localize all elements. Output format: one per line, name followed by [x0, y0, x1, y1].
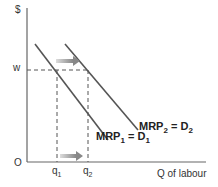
q2-label: q2 — [83, 165, 92, 178]
labour-demand-diagram — [0, 0, 218, 187]
q1-sub: 1 — [58, 171, 62, 178]
origin-label: O — [14, 157, 22, 168]
wage-label: w — [13, 62, 20, 73]
q1-label: q1 — [52, 165, 61, 178]
mrp2-eq: = — [168, 120, 181, 132]
y-axis-label: $ — [15, 4, 21, 15]
mrp1-curve — [35, 44, 108, 140]
mrp1-label: MRP1 = D1 — [96, 130, 150, 145]
mrp2-curve — [65, 44, 138, 130]
d1-sub: 1 — [145, 136, 149, 145]
x-axis-label: Q of labour — [157, 168, 206, 179]
mrp1-eq: = — [125, 130, 138, 142]
mrp1-text: MRP — [96, 130, 120, 142]
shift-arrow-lower — [60, 151, 83, 161]
d2-sub: 2 — [188, 126, 192, 135]
q2-sub: 2 — [89, 171, 93, 178]
